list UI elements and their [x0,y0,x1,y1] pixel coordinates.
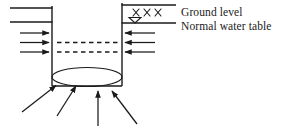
right-inflow-arrows [125,33,155,52]
bottom-uplift-arrow [22,86,56,113]
normal-water-table-label: Normal water table [181,20,272,32]
bottom-uplift-arrow [57,86,76,116]
ground-hatch-icon [133,9,161,16]
ground-level-label: Ground level [181,6,243,18]
base-heave-ellipse [52,68,122,87]
left-inflow-arrows [20,33,49,52]
water-table-marker-icon [129,18,141,24]
left-ground-lines [10,8,53,22]
shaft-walls [52,3,122,86]
seepage-dashed-lines [57,43,118,53]
diagram-canvas: Ground level Normal water table [0,0,287,132]
bottom-uplift-arrow [112,91,137,124]
bottom-uplift-arrows [22,86,137,127]
